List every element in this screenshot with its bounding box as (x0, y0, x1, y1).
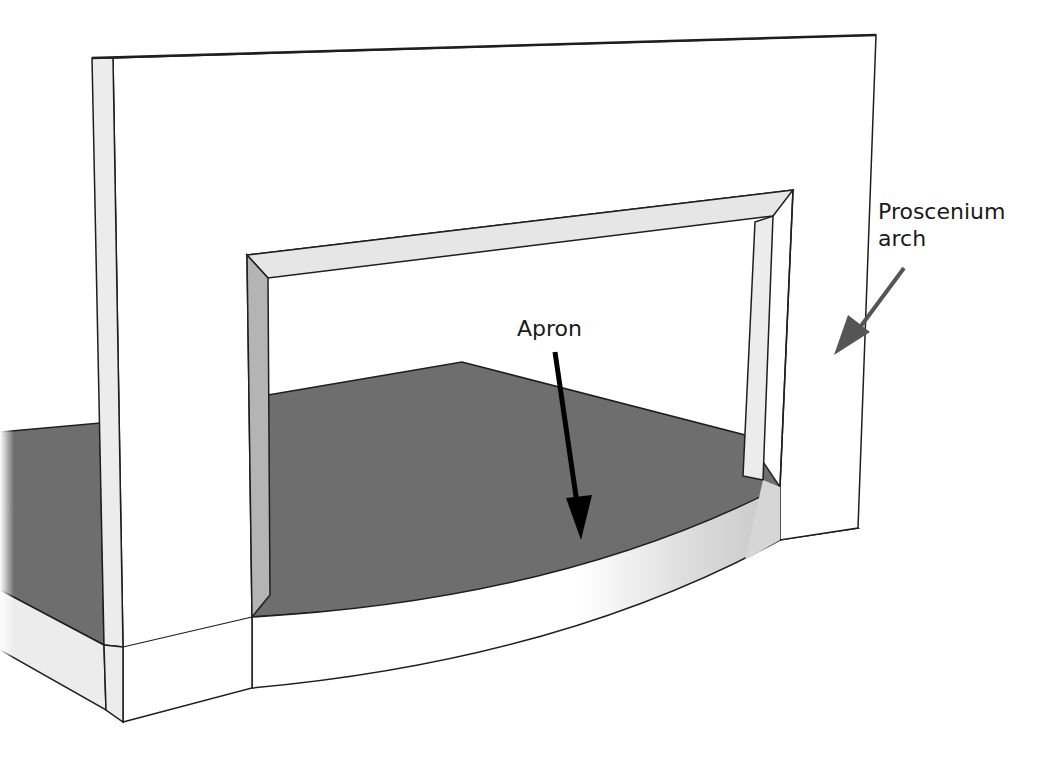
stage-diagram (0, 0, 1048, 760)
proscenium-arch-label: Proscenium arch (878, 198, 1005, 252)
arch-right-reveal (743, 216, 773, 480)
wall-left-base-side (104, 645, 123, 722)
left-stage-extension (0, 420, 106, 710)
proscenium-label-line1: Proscenium (878, 198, 1005, 225)
apron-label: Apron (517, 315, 582, 342)
proscenium-label-line2: arch (878, 225, 1005, 252)
